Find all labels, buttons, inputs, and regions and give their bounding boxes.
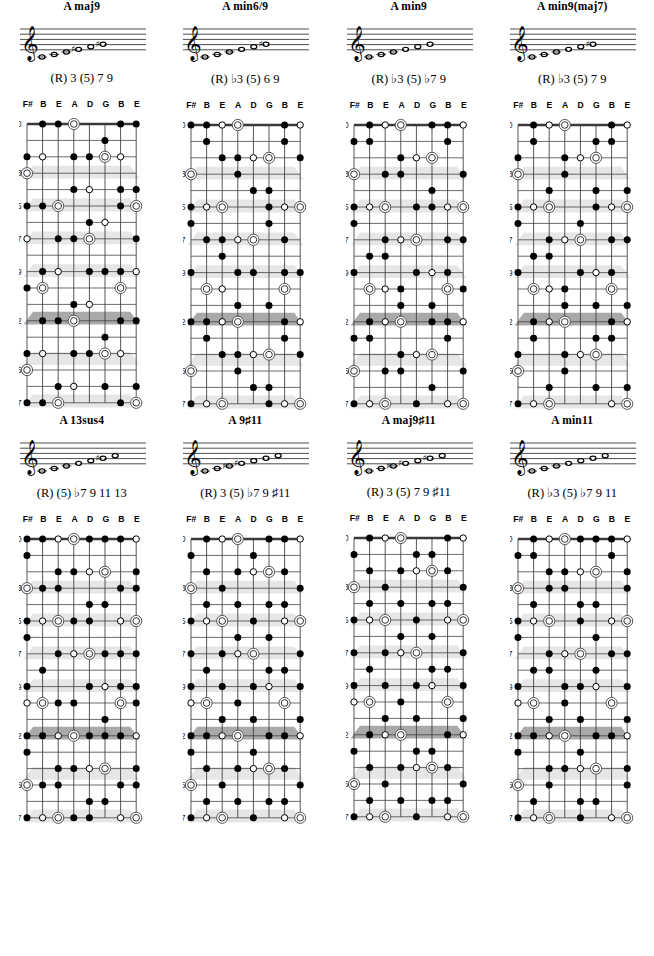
svg-text:𝄞: 𝄞	[348, 439, 366, 476]
fretboard-diagram: 03579121517	[346, 115, 471, 414]
svg-text:12: 12	[346, 731, 349, 740]
svg-text:0: 0	[510, 121, 513, 130]
svg-text:12: 12	[510, 732, 513, 741]
svg-text:7: 7	[510, 236, 513, 245]
svg-text:12: 12	[19, 732, 22, 741]
svg-text:0: 0	[19, 120, 22, 129]
svg-text:17: 17	[19, 399, 22, 408]
svg-text:12: 12	[183, 732, 186, 741]
chord-title: A min11	[551, 414, 593, 426]
svg-text:12: 12	[183, 318, 186, 327]
svg-text:12: 12	[346, 318, 349, 327]
svg-text:♯: ♯	[95, 39, 99, 49]
svg-text:5: 5	[183, 203, 186, 212]
string-label: G	[102, 514, 109, 524]
string-label: G	[429, 100, 436, 110]
staff-notation: 𝄞♯	[179, 21, 311, 67]
string-label: D	[87, 514, 93, 524]
svg-text:9: 9	[183, 682, 186, 691]
chord-title: A 9♯11	[228, 414, 262, 426]
svg-text:7: 7	[346, 649, 349, 658]
string-label: B	[204, 100, 210, 110]
string-label: G	[266, 514, 273, 524]
string-label: B	[367, 513, 373, 523]
string-label: E	[56, 514, 62, 524]
svg-text:7: 7	[346, 236, 349, 245]
svg-text:𝄞: 𝄞	[511, 439, 529, 476]
string-label: E	[220, 514, 226, 524]
chord-diagram-card: A min9𝄞(R) ♭3 (5) ♭7 9F#BEADGBE035791215…	[327, 0, 491, 414]
svg-text:7: 7	[19, 650, 22, 659]
string-label: E	[547, 100, 553, 110]
fretboard-diagram: 03579121517	[19, 114, 144, 413]
string-label: B	[118, 514, 124, 524]
svg-text:7: 7	[183, 236, 186, 245]
svg-text:9: 9	[183, 269, 186, 278]
string-label: B	[367, 100, 373, 110]
string-label: D	[251, 100, 257, 110]
chord-title: A min6/9	[222, 0, 268, 12]
chord-row: A 13sus4𝄞♯(R) (5) ♭7 9 11 13F#BEADGBE035…	[0, 414, 654, 828]
chord-title: A maj9♯11	[382, 414, 436, 426]
string-label: G	[102, 99, 109, 109]
string-label: A	[398, 100, 404, 110]
svg-text:5: 5	[346, 203, 349, 212]
string-label: B	[445, 513, 451, 523]
chord-diagram-card: A maj9♯11𝄞♯♯♯(R) 3 (5) 7 9 ♯11F#BEADGBE0…	[327, 414, 491, 828]
svg-text:5: 5	[346, 616, 349, 625]
svg-text:9: 9	[510, 682, 513, 691]
fretboard-diagram: 03579121517	[183, 529, 308, 828]
string-name-header: F#BEADGBE	[510, 100, 634, 113]
string-label: E	[220, 100, 226, 110]
svg-text:0: 0	[183, 121, 186, 130]
svg-text:0: 0	[183, 535, 186, 544]
svg-text:♯: ♯	[234, 458, 238, 468]
string-name-header: F#BEADGBE	[347, 513, 471, 526]
string-label: F#	[513, 100, 523, 110]
interval-formula: (R) (5) ♭7 9 11 13	[37, 485, 127, 501]
string-label: B	[282, 100, 288, 110]
svg-text:9: 9	[19, 268, 22, 277]
svg-text:17: 17	[19, 814, 22, 823]
string-label: A	[562, 514, 568, 524]
svg-text:♯: ♯	[422, 453, 426, 463]
chord-title: A min9	[390, 0, 427, 12]
svg-text:17: 17	[183, 400, 186, 409]
interval-formula: (R) 3 (5) 7 9 ♯11	[367, 485, 451, 500]
string-label: E	[298, 514, 304, 524]
string-label: G	[266, 100, 273, 110]
chord-diagram-card: A min6/9𝄞♯(R) ♭3 (5) 6 9F#BEADGBE0357912…	[164, 0, 328, 414]
staff-notation: 𝄞	[506, 435, 638, 481]
string-label: E	[547, 514, 553, 524]
string-label: F#	[350, 513, 360, 523]
string-label: B	[531, 514, 537, 524]
string-label: A	[562, 100, 568, 110]
svg-text:♯: ♯	[586, 39, 590, 49]
string-label: A	[398, 513, 404, 523]
chord-diagram-card: A maj9𝄞♯♯(R) 3 (5) 7 9F#BEADGBE035791215…	[0, 0, 164, 414]
string-label: G	[429, 513, 436, 523]
string-label: D	[87, 99, 93, 109]
string-label: B	[531, 100, 537, 110]
svg-text:0: 0	[19, 535, 22, 544]
svg-text:0: 0	[346, 534, 349, 543]
fretboard-diagram: 03579121517	[183, 115, 308, 414]
svg-text:17: 17	[346, 813, 349, 822]
string-name-header: F#BEADGBE	[510, 514, 634, 527]
chord-title: A 13sus4	[59, 414, 104, 426]
svg-text:𝄞: 𝄞	[184, 25, 202, 62]
string-label: F#	[513, 514, 523, 524]
string-label: B	[40, 514, 46, 524]
fretboard-diagram: 03579121517	[19, 529, 144, 828]
string-label: B	[282, 514, 288, 524]
svg-text:17: 17	[183, 814, 186, 823]
string-label: F#	[23, 514, 33, 524]
svg-text:𝄞: 𝄞	[348, 25, 366, 62]
chord-title: A min9(maj7)	[537, 0, 607, 12]
staff-notation: 𝄞♯♯	[16, 21, 148, 67]
svg-text:7: 7	[183, 650, 186, 659]
svg-text:17: 17	[346, 400, 349, 409]
string-label: D	[251, 514, 257, 524]
string-label: D	[578, 100, 584, 110]
svg-text:5: 5	[19, 202, 22, 211]
